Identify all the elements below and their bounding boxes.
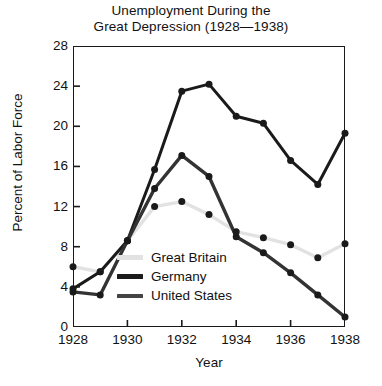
y-tick-label: 8	[30, 240, 68, 254]
y-axis-title: Percent of Labor Force	[10, 83, 25, 243]
legend-swatch-icon	[117, 294, 143, 298]
legend-swatch-icon	[117, 274, 143, 279]
x-axis-title: Year	[73, 355, 345, 370]
x-tick-label: 1932	[152, 333, 212, 347]
x-axis-tick-labels: 192819301932193419361938	[0, 333, 382, 353]
x-tick-label: 1934	[206, 333, 266, 347]
y-tick-label: 24	[30, 79, 68, 93]
x-tick-label: 1938	[315, 333, 375, 347]
x-tick-label: 1930	[97, 333, 157, 347]
y-tick-label: 4	[30, 280, 68, 294]
legend-label: Great Britain	[151, 251, 227, 265]
legend-label: United States	[151, 289, 232, 303]
legend-swatch-icon	[117, 255, 143, 260]
unemployment-line-chart: Unemployment During the Great Depression…	[0, 0, 382, 386]
y-axis-tick-labels: 0481216202428	[24, 0, 68, 386]
y-tick-label: 20	[30, 119, 68, 133]
legend-item[interactable]: Great Britain	[117, 248, 267, 267]
chart-legend: Great BritainGermanyUnited States	[117, 248, 267, 305]
legend-label: Germany	[151, 270, 207, 284]
legend-item[interactable]: Germany	[117, 267, 267, 286]
x-tick-label: 1928	[43, 333, 103, 347]
x-tick-label: 1936	[261, 333, 321, 347]
y-tick-label: 12	[30, 200, 68, 214]
legend-item[interactable]: United States	[117, 286, 267, 305]
y-tick-label: 16	[30, 159, 68, 173]
y-tick-label: 28	[30, 39, 68, 53]
